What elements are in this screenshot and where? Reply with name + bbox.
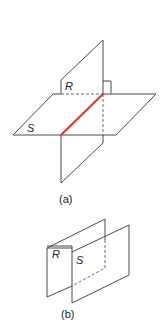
plane-r-label: R	[52, 248, 60, 260]
intersection-line	[61, 94, 103, 135]
figure-a: R S (a)	[13, 40, 156, 205]
caption-a: (a)	[59, 193, 72, 205]
caption-b: (b)	[61, 308, 74, 320]
diagram-canvas: R S (a) R S (b)	[0, 0, 163, 321]
right-angle-marker	[103, 81, 111, 94]
figure-b: R S (b)	[47, 219, 129, 320]
plane-s-label: S	[27, 122, 35, 134]
plane-s-label: S	[76, 254, 84, 266]
plane-r-top	[47, 219, 105, 248]
plane-s-right-top	[13, 94, 156, 135]
plane-r-lower	[61, 135, 103, 183]
plane-r-label: R	[65, 80, 73, 92]
